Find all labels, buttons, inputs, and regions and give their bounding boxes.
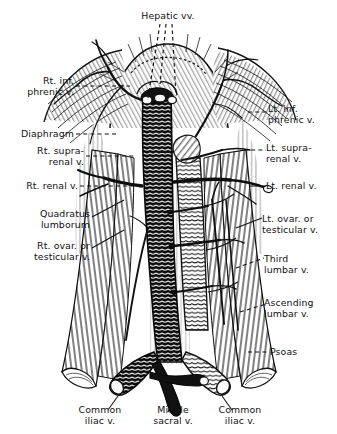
label-common-iliac-vein-left: Common iliac v. [204,404,276,427]
label-rt-suprarenal-vein: Rt. supra- renal v. [4,145,84,168]
figure-canvas: Hepatic vv. Rt. inf. phrenic v. Diaphrag… [0,0,337,434]
label-middle-sacral-vein: Middle sacral v. [140,404,206,427]
label-common-iliac-vein-right: Common iliac v. [64,404,136,427]
label-lt-renal-vein: Lt. renal v. [266,180,337,191]
label-hepatic-veins: Hepatic vv. [118,10,218,21]
label-lt-suprarenal-vein: Lt. supra- renal v. [266,142,336,165]
label-diaphragm: Diaphragm [4,128,74,139]
label-quadratus-lumborum: Quadratus lumborum [4,208,90,231]
label-psoas: Psoas [270,346,330,357]
label-rt-renal-vein: Rt. renal v. [4,180,78,191]
label-ascending-lumbar-vein: Ascending lumbar v. [264,297,337,320]
label-rt-ovarian-testicular-vein: Rt. ovar. or testicular v. [4,240,90,263]
label-lt-inf-phrenic-vein: Lt. inf. phrenic v. [268,103,337,126]
label-rt-inf-phrenic-vein: Rt. inf. phrenic v. [4,75,74,98]
label-third-lumbar-vein: Third lumbar v. [264,253,334,276]
label-lt-ovarian-testicular-vein: Lt. ovar. or testicular v. [262,213,337,236]
